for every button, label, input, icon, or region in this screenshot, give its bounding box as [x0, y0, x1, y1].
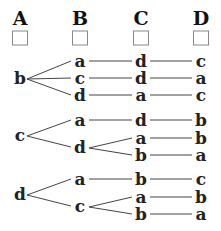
edge — [27, 120, 71, 136]
c-node: b — [135, 169, 147, 189]
c-node: a — [135, 85, 146, 105]
root-node: c — [15, 125, 25, 145]
answer-checkbox-c[interactable] — [134, 31, 149, 45]
d-node: b — [195, 110, 207, 130]
c-node: d — [135, 110, 147, 130]
b-node: a — [74, 169, 85, 189]
d-node: a — [195, 145, 206, 165]
d-node: c — [196, 85, 206, 105]
d-node: c — [196, 169, 206, 189]
root-node: d — [14, 184, 26, 204]
edge — [89, 148, 132, 155]
c-node: b — [135, 204, 147, 224]
edge — [27, 195, 71, 206]
edge — [27, 136, 71, 147]
root-node: b — [14, 68, 26, 88]
b-node: d — [74, 85, 86, 105]
column-header-c: C — [133, 7, 148, 29]
c-node: b — [135, 145, 147, 165]
column-header-d: D — [193, 7, 209, 29]
b-node: c — [75, 196, 85, 216]
answer-checkbox-b[interactable] — [73, 31, 88, 45]
answer-checkbox-d[interactable] — [194, 31, 209, 45]
column-header-b: B — [72, 7, 88, 29]
b-node: a — [74, 110, 85, 130]
edge — [89, 207, 132, 214]
edge — [27, 61, 71, 79]
answer-checkbox-a[interactable] — [13, 31, 28, 45]
edge — [27, 179, 71, 195]
d-node: a — [195, 204, 206, 224]
tree-diagram: ABCDbadccdadaccadbdabbadabccabba — [0, 0, 221, 231]
edge — [27, 79, 71, 95]
edge — [27, 78, 71, 79]
edge — [89, 197, 132, 207]
column-header-a: A — [12, 7, 28, 29]
edge — [89, 138, 132, 148]
b-node: d — [74, 137, 86, 157]
